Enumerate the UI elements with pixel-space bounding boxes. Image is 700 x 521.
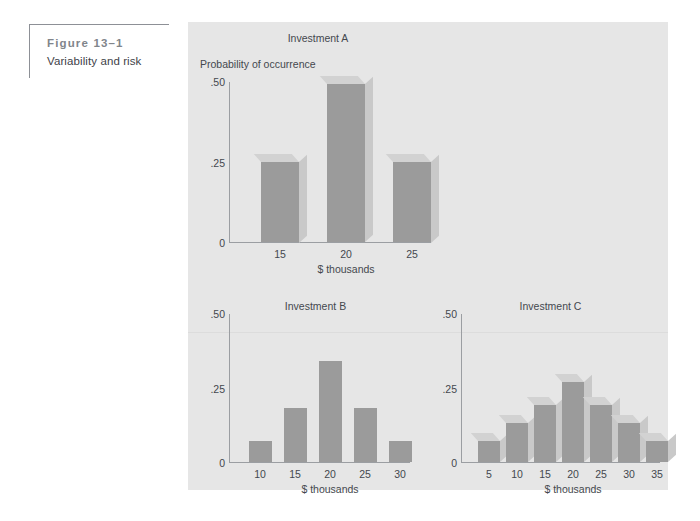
bar: [534, 405, 556, 462]
x-tick-label: 5: [486, 468, 492, 480]
chart-title-a: Investment A: [188, 32, 448, 44]
x-tick-label: 25: [359, 468, 371, 480]
x-tick-label: 15: [274, 248, 286, 260]
bar: [646, 441, 668, 462]
x-tick-label: 30: [394, 468, 406, 480]
x-tick-label: 20: [567, 468, 579, 480]
x-tick-label: 35: [651, 468, 663, 480]
x-axis-label: $ thousands: [544, 483, 601, 495]
x-tick-label: 20: [324, 468, 336, 480]
bar: [389, 441, 412, 462]
bar: [393, 162, 431, 243]
y-tick-label: .25: [442, 383, 457, 395]
x-tick-label: 10: [511, 468, 523, 480]
bar: [249, 441, 272, 462]
figure-number: Figure 13–1: [47, 37, 169, 49]
chart-investment-c: Investment C .50.2505101520253035$ thous…: [420, 300, 668, 490]
bar: [478, 441, 500, 462]
y-tick-label: 0: [219, 237, 225, 249]
figure-title: Variability and risk: [47, 55, 169, 67]
chart-investment-b: Investment B .50.2501015202530$ thousand…: [188, 300, 423, 490]
figure-plate: Investment A Probability of occurrence .…: [188, 22, 668, 490]
y-tick-label: .50: [210, 308, 225, 320]
bar: [319, 361, 342, 462]
chart-title-c: Investment C: [438, 300, 663, 312]
x-tick-label: 10: [254, 468, 266, 480]
bar: [261, 162, 299, 243]
chart-investment-a: Investment A Probability of occurrence .…: [188, 22, 448, 267]
x-tick-label: 15: [539, 468, 551, 480]
x-axis-label: $ thousands: [301, 483, 358, 495]
chart-title-b: Investment B: [208, 300, 423, 312]
plot-area-b: .50.2501015202530$ thousands: [229, 314, 410, 463]
plot-area-a: .50.250152025$ thousands: [229, 82, 431, 243]
x-tick-label: 25: [595, 468, 607, 480]
y-tick-label: 0: [451, 457, 457, 469]
x-tick-label: 25: [406, 248, 418, 260]
x-axis-label: $ thousands: [317, 263, 374, 275]
figure-caption-block: Figure 13–1 Variability and risk: [29, 24, 169, 78]
x-tick-label: 15: [289, 468, 301, 480]
y-tick-label: 0: [219, 457, 225, 469]
bar: [284, 408, 307, 462]
bar: [562, 382, 584, 462]
bar: [354, 408, 377, 462]
bar: [506, 423, 528, 462]
y-tick-label: .50: [442, 308, 457, 320]
x-tick-label: 30: [623, 468, 635, 480]
bar: [590, 405, 612, 462]
bar: [327, 84, 365, 242]
y-tick-label: .25: [210, 383, 225, 395]
plot-area-c: .50.2505101520253035$ thousands: [461, 314, 660, 463]
y-axis-label-a: Probability of occurrence: [200, 58, 316, 70]
x-tick-label: 20: [340, 248, 352, 260]
y-tick-label: .25: [210, 157, 225, 169]
bar: [618, 423, 640, 462]
y-tick-label: .50: [210, 76, 225, 88]
